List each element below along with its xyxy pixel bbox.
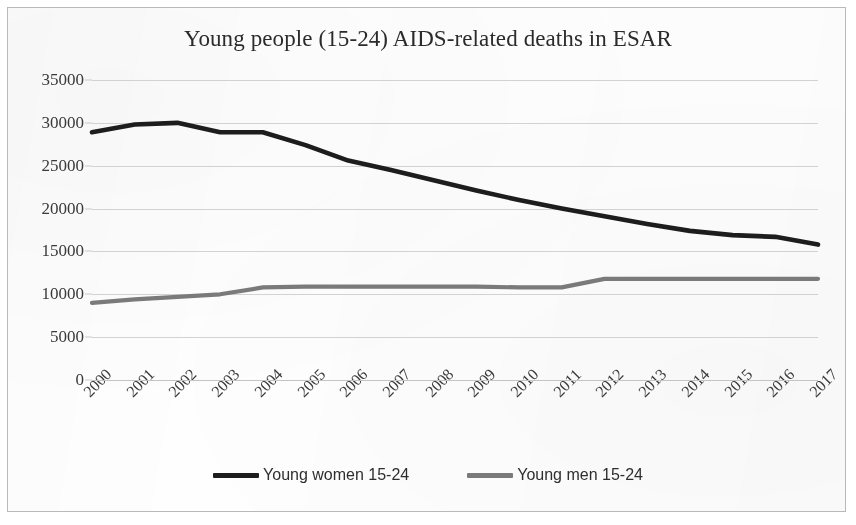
chart-title: Young people (15-24) AIDS-related deaths… xyxy=(0,26,856,52)
legend-label: Young women 15-24 xyxy=(263,466,409,484)
y-tick-label-25000: 25000 xyxy=(14,156,84,176)
y-tick-label-15000: 15000 xyxy=(14,241,84,261)
legend-item-young-women[interactable]: Young women 15-24 xyxy=(213,466,409,484)
plot-area xyxy=(92,80,818,380)
y-tick-mark-30000 xyxy=(85,122,92,123)
y-tick-label-5000: 5000 xyxy=(14,327,84,347)
y-tick-mark-35000 xyxy=(85,80,92,81)
series-line-young-women xyxy=(92,123,818,245)
y-tick-mark-15000 xyxy=(85,251,92,252)
y-tick-label-20000: 20000 xyxy=(14,199,84,219)
series-lines xyxy=(92,80,818,380)
y-tick-label-10000: 10000 xyxy=(14,284,84,304)
y-tick-mark-25000 xyxy=(85,165,92,166)
y-tick-label-30000: 30000 xyxy=(14,113,84,133)
chart-legend: Young women 15-24Young men 15-24 xyxy=(0,466,856,484)
y-tick-mark-5000 xyxy=(85,337,92,338)
legend-swatch-icon xyxy=(213,473,259,478)
legend-label: Young men 15-24 xyxy=(517,466,643,484)
y-tick-label-35000: 35000 xyxy=(14,70,84,90)
legend-item-young-men[interactable]: Young men 15-24 xyxy=(467,466,643,484)
y-tick-label-0: 0 xyxy=(14,370,84,390)
y-tick-mark-20000 xyxy=(85,208,92,209)
series-line-young-men xyxy=(92,279,818,303)
y-tick-mark-10000 xyxy=(85,294,92,295)
gridline-0 xyxy=(92,380,818,381)
legend-swatch-icon xyxy=(467,473,513,478)
